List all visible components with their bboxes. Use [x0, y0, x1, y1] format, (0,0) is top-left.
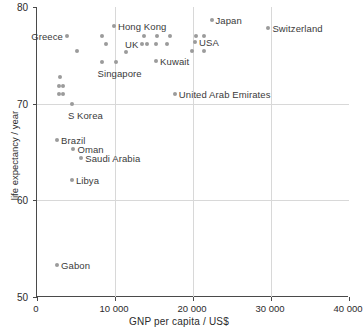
data-point[interactable]	[55, 138, 59, 142]
data-point[interactable]	[100, 34, 104, 38]
data-point-label: Switzerland	[272, 23, 322, 34]
data-point[interactable]	[165, 42, 169, 46]
data-point-label: Greece	[31, 31, 63, 42]
x-axis-tick	[193, 297, 194, 301]
data-point-label: Hong Kong	[118, 21, 166, 32]
x-axis-title: GNP per capita / US$	[0, 316, 358, 327]
data-point[interactable]	[55, 263, 59, 267]
data-point[interactable]	[145, 42, 149, 46]
data-point[interactable]	[154, 42, 158, 46]
data-point-label: USA	[199, 36, 219, 47]
data-point[interactable]	[65, 34, 69, 38]
y-axis-tick	[33, 200, 37, 201]
data-point[interactable]	[210, 18, 214, 22]
data-point[interactable]	[266, 26, 270, 30]
data-point[interactable]	[75, 49, 79, 53]
x-axis-tick-label: 10 000	[99, 303, 128, 314]
y-axis-tick	[33, 7, 37, 8]
x-axis-tick	[271, 297, 272, 301]
x-axis-tick-label: 20 000	[177, 303, 206, 314]
data-point[interactable]	[70, 178, 74, 182]
data-point[interactable]	[57, 92, 61, 96]
data-point-label: Gabon	[61, 260, 90, 271]
data-point[interactable]	[61, 92, 65, 96]
data-point[interactable]	[124, 50, 128, 54]
data-point-label: Japan	[216, 14, 242, 25]
gridline-horizontal	[37, 104, 349, 105]
data-point-label: Kuwait	[160, 56, 189, 67]
data-point[interactable]	[168, 34, 172, 38]
data-point[interactable]	[202, 49, 206, 53]
data-point-label: Saudi Arabia	[85, 152, 140, 163]
x-axis-tick-label: 30 000	[255, 303, 284, 314]
data-point[interactable]	[71, 147, 75, 151]
y-axis-tick	[33, 104, 37, 105]
data-point-label: Libya	[76, 175, 99, 186]
x-axis-tick-label: 0	[33, 303, 38, 314]
y-axis-tick-label: 80	[2, 2, 28, 13]
data-point[interactable]	[61, 84, 65, 88]
data-point[interactable]	[154, 59, 158, 63]
data-point[interactable]	[114, 60, 118, 64]
x-axis-tick-label: 40 000	[333, 303, 362, 314]
y-axis-tick-label: 70	[2, 98, 28, 109]
data-point[interactable]	[104, 42, 108, 46]
data-point[interactable]	[202, 34, 206, 38]
data-point[interactable]	[155, 34, 159, 38]
gridline-horizontal	[37, 200, 349, 201]
data-point-label: S Korea	[68, 109, 103, 120]
y-axis-tick	[33, 297, 37, 298]
data-point[interactable]	[100, 60, 104, 64]
x-axis-tick	[37, 297, 38, 301]
data-point[interactable]	[173, 92, 177, 96]
y-axis-tick-label: 60	[2, 195, 28, 206]
data-point-label: UK	[125, 38, 138, 49]
data-point[interactable]	[193, 40, 197, 44]
gridline-vertical	[271, 7, 272, 297]
x-axis-tick	[115, 297, 116, 301]
data-point[interactable]	[57, 84, 61, 88]
y-axis-tick-label: 50	[2, 292, 28, 303]
data-point-label: Singapore	[98, 68, 142, 79]
data-point[interactable]	[140, 42, 144, 46]
data-point[interactable]	[112, 24, 116, 28]
data-point[interactable]	[79, 156, 83, 160]
data-point[interactable]	[194, 34, 198, 38]
data-point-label: United Arab Emirates	[179, 89, 271, 100]
x-axis-tick	[349, 297, 350, 301]
data-point[interactable]	[142, 34, 146, 38]
data-point[interactable]	[58, 75, 62, 79]
data-point[interactable]	[70, 102, 74, 106]
data-point[interactable]	[190, 49, 194, 53]
y-axis-title: life expectancy / year	[9, 56, 20, 256]
